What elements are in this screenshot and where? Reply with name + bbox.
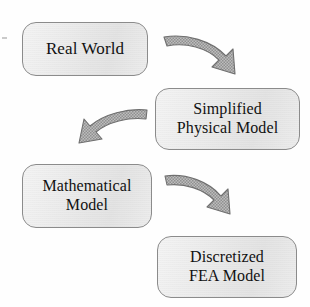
arrow-real-world-to-simplified (164, 36, 235, 74)
arrow-mathematical-to-discretized (165, 175, 230, 214)
node-simplified-physical-model: Simplified Physical Model (155, 88, 300, 150)
node-real-world: Real World (22, 22, 148, 76)
diagram-canvas: Real World Simplified Physical Model Mat… (0, 0, 310, 307)
arrow-simplified-to-mathematical (79, 110, 147, 143)
node-real-world-label: Real World (41, 39, 129, 59)
node-simplified-physical-model-label: Simplified Physical Model (172, 100, 283, 138)
node-discretized-fea-model-label: Discretized FEA Model (184, 248, 270, 286)
scan-artifact-mark (2, 37, 7, 39)
node-mathematical-model-label: Mathematical Model (37, 177, 136, 215)
node-discretized-fea-model: Discretized FEA Model (157, 236, 297, 298)
node-mathematical-model: Mathematical Model (22, 164, 152, 228)
